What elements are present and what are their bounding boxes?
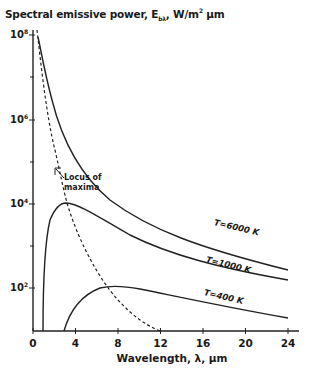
y-tick-label: 106 <box>10 113 28 125</box>
x-tick-label: 12 <box>153 337 168 349</box>
annotation-arrow <box>55 168 64 178</box>
y-tick-label: 102 <box>10 281 28 293</box>
y-tick-label: 104 <box>10 197 28 209</box>
y-ticks <box>29 35 35 288</box>
x-tick-label: 20 <box>238 337 253 349</box>
x-tick-label: 4 <box>72 337 79 349</box>
curve-400k <box>64 286 288 331</box>
x-tick-label: 0 <box>29 337 36 349</box>
x-axis-title: Wavelength, λ, µm <box>116 352 227 364</box>
annotation-locus-of-maxima: Locus of maxima <box>64 173 102 193</box>
x-tick-label: 16 <box>196 337 211 349</box>
x-tick-label: 8 <box>114 337 121 349</box>
y-tick-label: 108 <box>10 28 28 40</box>
chart-plot-area <box>0 0 312 373</box>
x-tick-label: 24 <box>281 337 296 349</box>
